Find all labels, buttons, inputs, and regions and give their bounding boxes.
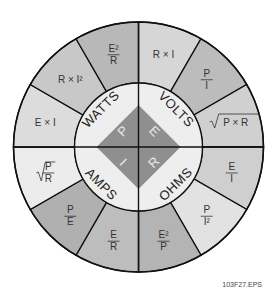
svg-text:I²: I² [204, 216, 211, 227]
svg-text:R: R [110, 55, 117, 66]
formula-label: R × I [153, 49, 174, 60]
svg-text:P: P [45, 161, 52, 172]
formula-label: R × I² [58, 74, 83, 85]
svg-text:E²: E² [158, 229, 169, 240]
svg-text:R: R [110, 241, 117, 252]
svg-text:P: P [203, 204, 210, 215]
formula-wheel: WATTSPVOLTSEOHMSRAMPSI R × IPIP × REIPI²… [0, 0, 274, 298]
svg-text:E × I: E × I [35, 117, 56, 128]
formula-label: E × I [35, 117, 56, 128]
svg-text:P: P [67, 204, 74, 215]
figure-id: 103F27.EPS [222, 281, 262, 288]
svg-text:E: E [228, 161, 235, 172]
svg-text:I: I [205, 80, 208, 91]
svg-text:E: E [110, 229, 117, 240]
svg-text:I: I [230, 173, 233, 184]
svg-text:R: R [45, 173, 52, 184]
svg-text:R × I²: R × I² [58, 74, 83, 85]
svg-text:E: E [67, 216, 74, 227]
svg-text:P × R: P × R [223, 117, 248, 128]
svg-text:E²: E² [109, 43, 120, 54]
svg-text:R × I: R × I [153, 49, 174, 60]
svg-text:P: P [160, 241, 167, 252]
svg-text:P: P [203, 68, 210, 79]
